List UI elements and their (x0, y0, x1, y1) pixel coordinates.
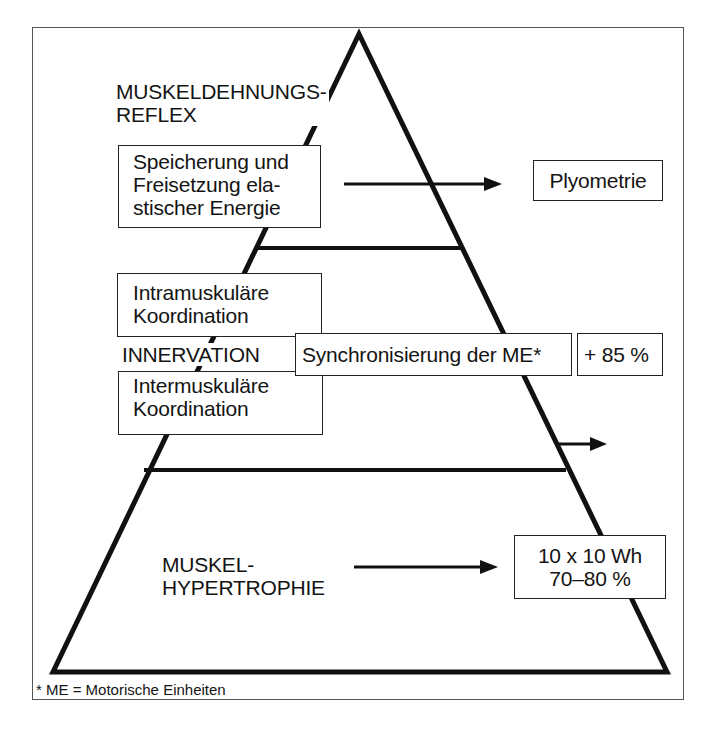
box-text: Plyometrie (549, 169, 646, 192)
label-innervation: INNERVATION (120, 343, 262, 366)
box-line: Koordination (133, 397, 322, 420)
box-synchronisierung: Synchronisierung der ME* (295, 333, 572, 376)
box-text: + 85 % (584, 343, 649, 366)
box-text: Synchronisierung der ME* (302, 343, 541, 366)
box-line: stischer Energie (133, 196, 320, 219)
label-muskelhypertrophie: MUSKEL- HYPERTROPHIE (162, 553, 325, 599)
arrow-middle-level (556, 437, 607, 451)
box-line: 10 x 10 Wh (515, 544, 665, 567)
box-plyometrie: Plyometrie (533, 160, 663, 201)
box-line: Intermuskuläre (133, 374, 322, 397)
label-line: MUSKELDEHNUNGS- (116, 80, 327, 103)
box-intermuskulaere: Intermuskuläre Koordination (118, 371, 323, 435)
label-line: REFLEX (116, 103, 327, 126)
label-muskeldehnungsreflex: MUSKELDEHNUNGS- REFLEX (116, 80, 329, 126)
box-line: Koordination (133, 304, 321, 327)
box-line: Speicherung und (133, 150, 320, 173)
box-line: 70–80 % (515, 567, 665, 590)
box-intramuskulaere: Intramuskuläre Koordination (117, 273, 322, 337)
label-line: MUSKEL- (162, 553, 325, 576)
box-speicherung: Speicherung und Freisetzung ela- stische… (118, 145, 321, 228)
box-10x10: 10 x 10 Wh 70–80 % (514, 535, 666, 599)
footnote: * ME = Motorische Einheiten (36, 681, 226, 698)
arrow-plyometrie (344, 177, 502, 191)
box-plus-85: + 85 % (577, 333, 663, 376)
box-line: Freisetzung ela- (133, 173, 320, 196)
box-line: Intramuskuläre (133, 281, 321, 304)
label-line: HYPERTROPHIE (162, 576, 325, 599)
arrow-hypertrophie (354, 560, 498, 574)
